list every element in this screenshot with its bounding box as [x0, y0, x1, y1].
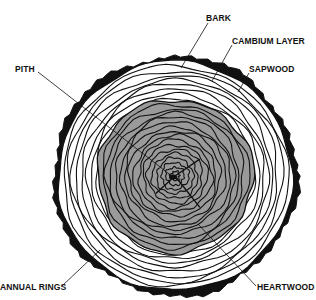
label-pith: PITH	[15, 64, 35, 74]
label-cambium-layer: CAMBIUM LAYER	[232, 36, 305, 46]
label-heartwood: HEARTWOOD	[257, 282, 315, 292]
label-bark: BARK	[206, 13, 231, 23]
label-annual-rings: ANNUAL RINGS	[0, 282, 66, 292]
label-sapwood: SAPWOOD	[249, 64, 295, 74]
